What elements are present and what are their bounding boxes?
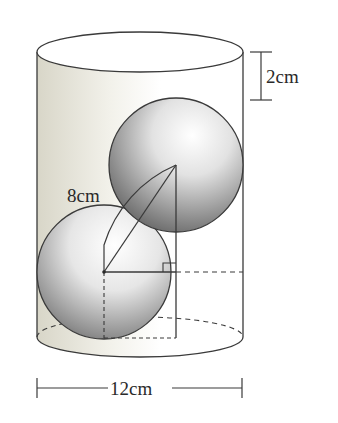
label-12cm: 12cm [110,378,152,399]
label-8cm: 8cm [67,185,100,206]
label-2cm: 2cm [266,66,299,87]
cylinder-spheres-diagram: 2cm 8cm 12cm [0,0,338,423]
center-point [102,270,106,274]
diagram-canvas: 2cm 8cm 12cm [0,0,338,423]
cylinder-top-ellipse [37,32,243,72]
